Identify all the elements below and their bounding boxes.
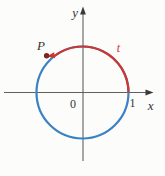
arc-t-label: t [117, 41, 121, 55]
unit-circle-diagram: y x 0 1 P t [0, 0, 165, 176]
origin-label: 0 [70, 97, 76, 111]
point-p-label: P [36, 38, 45, 53]
x-axis-label: x [147, 98, 154, 113]
y-axis-arrowhead-icon [80, 7, 86, 15]
unit-circle-figure: y x 0 1 P t [0, 0, 165, 176]
y-axis-label: y [70, 5, 78, 20]
point-p-dot [44, 53, 49, 58]
x-axis-arrowhead-icon [146, 90, 154, 96]
unit-one-label: 1 [130, 96, 136, 110]
